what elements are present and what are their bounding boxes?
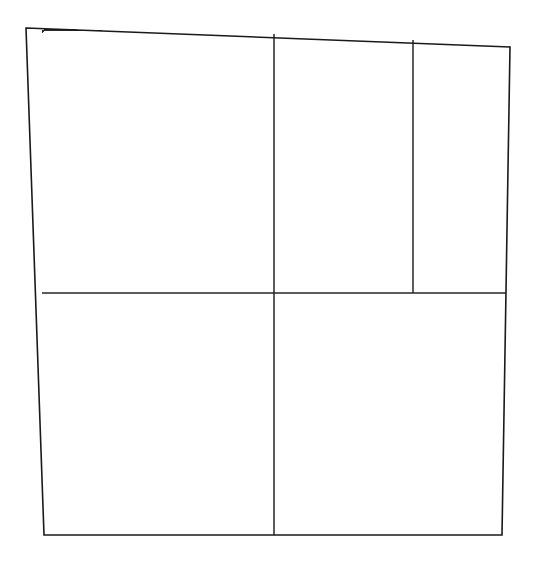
figure-container <box>0 0 535 562</box>
figure-background <box>0 0 535 562</box>
contour-plot-figure <box>0 0 535 562</box>
